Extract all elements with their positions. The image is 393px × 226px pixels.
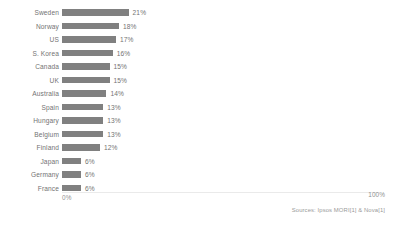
x-axis-tick-max: 100% [368,191,385,198]
bar [62,104,103,110]
bar [62,185,81,191]
bar-category-label: Hungary [0,114,59,128]
bar [62,63,110,69]
bar-value-label: 12% [104,141,118,155]
bar-value-label: 21% [133,6,147,20]
source-attribution: Sources: Ipsos MORI[1] & Nova[1] [292,207,385,213]
bar-chart: Sweden21%Norway18%US17%S. Korea16%Canada… [0,0,393,226]
bar-row: Japan6% [0,155,393,169]
bar-row: Sweden21% [0,6,393,20]
bar-category-label: S. Korea [0,47,59,61]
bar-row: Germany6% [0,168,393,182]
bar-category-label: Norway [0,20,59,34]
bar-value-label: 18% [123,20,137,34]
bar-category-label: US [0,33,59,47]
bar-track: 14% [62,87,393,101]
bar [62,144,100,150]
bar-row: Finland12% [0,141,393,155]
bar-track: 13% [62,101,393,115]
bar-value-label: 6% [85,155,95,169]
bar [62,117,103,123]
bar-track: 13% [62,114,393,128]
bar [62,50,113,56]
bar-track: 21% [62,6,393,20]
bar-value-label: 14% [110,87,124,101]
bar-track: 6% [62,168,393,182]
bar-row: Norway18% [0,20,393,34]
bar-row: S. Korea16% [0,47,393,61]
bar-value-label: 13% [107,128,121,142]
bar-category-label: Japan [0,155,59,169]
bar-value-label: 13% [107,114,121,128]
bar-track: 18% [62,20,393,34]
bar-category-label: UK [0,74,59,88]
bar-track: 15% [62,60,393,74]
bar-row: US17% [0,33,393,47]
bar-track: 17% [62,33,393,47]
bar-track: 16% [62,47,393,61]
bar [62,9,129,15]
bar-category-label: Germany [0,168,59,182]
bar-track: 12% [62,141,393,155]
bar-row: Hungary13% [0,114,393,128]
bar [62,158,81,164]
bar-track: 13% [62,128,393,142]
bar-value-label: 15% [114,60,128,74]
bar-value-label: 6% [85,168,95,182]
bar-category-label: Canada [0,60,59,74]
bar-value-label: 13% [107,101,121,115]
bar-row: Australia14% [0,87,393,101]
bar-track: 15% [62,74,393,88]
bar-value-label: 17% [120,33,134,47]
x-axis-tick-min: 0% [62,194,71,201]
bar-category-label: Australia [0,87,59,101]
bar-track: 6% [62,155,393,169]
bar-row: UK15% [0,74,393,88]
x-axis-line [62,192,379,193]
chart-plot-area: Sweden21%Norway18%US17%S. Korea16%Canada… [0,6,393,195]
bar-value-label: 16% [117,47,131,61]
bar-row: Belgium13% [0,128,393,142]
bar-category-label: France [0,182,59,196]
bar [62,77,110,83]
bar [62,90,106,96]
bar [62,171,81,177]
bar-row: Spain13% [0,101,393,115]
bar-category-label: Sweden [0,6,59,20]
bar [62,131,103,137]
bar-category-label: Finland [0,141,59,155]
bar-category-label: Spain [0,101,59,115]
bar-category-label: Belgium [0,128,59,142]
bar-value-label: 15% [114,74,128,88]
bar [62,36,116,42]
bar [62,23,119,29]
bar-row: Canada15% [0,60,393,74]
